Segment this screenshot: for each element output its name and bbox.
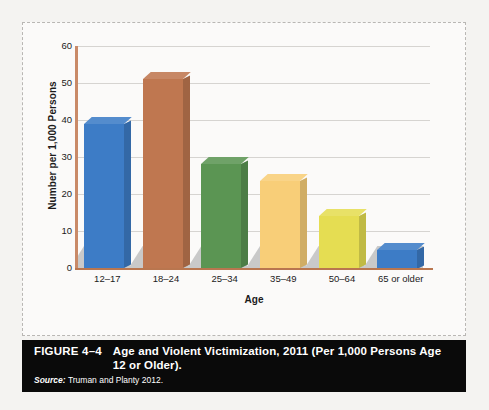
figure-page: Number per 1,000 Persons 0102030405060 1… [0,0,489,410]
bar-side-face [300,178,307,268]
bar[interactable] [143,79,183,268]
bar[interactable] [319,216,359,268]
y-tick-label: 50 [48,78,72,88]
x-tick-label: 12–17 [78,274,137,284]
x-tick-label: 18–24 [137,274,196,284]
bar-side-face [183,76,190,268]
bar[interactable] [84,124,124,268]
source-text: Truman and Planty 2012. [68,375,163,385]
bar-slot [260,46,300,268]
x-tick-label: 65 or older [371,274,430,284]
caption-line: FIGURE 4–4 Age and Violent Victimization… [34,345,456,372]
bar-side-face [124,120,131,268]
bar-slot [377,46,417,268]
y-axis-tick-labels: 0102030405060 [48,46,72,268]
figure-caption-bar: FIGURE 4–4 Age and Violent Victimization… [22,340,466,392]
bar-top-face [143,72,191,79]
figure-number: FIGURE 4–4 [34,345,102,357]
bar[interactable] [377,250,417,269]
bar-front-face [377,250,417,269]
bar-front-face [319,216,359,268]
bar-slot [319,46,359,268]
x-axis-title: Age [78,294,430,305]
bar-front-face [84,124,124,268]
bar-front-face [143,79,183,268]
bar-front-face [260,181,300,268]
y-axis-line [75,46,78,270]
bar[interactable] [201,164,241,268]
bar-side-face [359,213,366,268]
x-tick-label: 50–64 [313,274,372,284]
bar-series [78,46,430,268]
source-label: Source: [34,375,66,385]
bar-top-face [377,243,425,250]
bar-side-face [241,161,248,268]
y-tick-label: 0 [48,263,72,273]
y-tick-label: 20 [48,189,72,199]
bar[interactable] [260,181,300,268]
figure-title: Age and Violent Victimization, 2011 (Per… [111,345,456,372]
bar-side-face [417,246,424,268]
plot-area [78,46,430,268]
figure-source: Source: Truman and Planty 2012. [34,375,456,385]
x-axis-line [75,268,433,270]
bar-slot [143,46,183,268]
x-axis-tick-labels: 12–1718–2425–3435–4950–6465 or older [78,274,430,290]
x-tick-label: 25–34 [195,274,254,284]
bar-front-face [201,164,241,268]
bar-top-face [84,117,132,124]
chart-area: Number per 1,000 Persons 0102030405060 1… [22,22,466,336]
y-tick-label: 30 [48,152,72,162]
bar-top-face [260,174,308,181]
y-tick-label: 40 [48,115,72,125]
bar-slot [201,46,241,268]
bar-top-face [319,209,367,216]
y-tick-label: 60 [48,41,72,51]
bar-slot [84,46,124,268]
y-tick-label: 10 [48,226,72,236]
x-tick-label: 35–49 [254,274,313,284]
